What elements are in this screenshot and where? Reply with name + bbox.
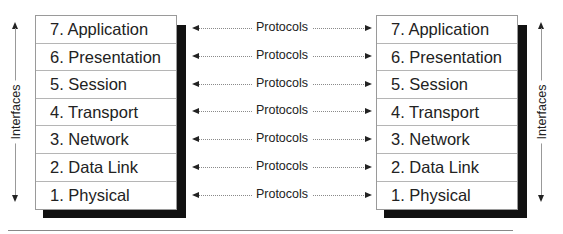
protocol-connector-session: Protocols [192, 78, 372, 92]
interfaces-arrow-left: Interfaces [9, 22, 23, 202]
arrow-right-icon [365, 136, 372, 142]
interfaces-label-left: Interfaces [9, 81, 23, 144]
layer-application: 7. Application [36, 16, 176, 44]
protocol-label: Protocols [252, 187, 312, 201]
stack-box: 7. Application 6. Presentation 5. Sessio… [376, 15, 518, 210]
arrow-right-icon [365, 81, 372, 87]
layer-transport: 4. Transport [36, 99, 176, 127]
protocol-connector-transport: Protocols [192, 105, 372, 119]
layer-presentation: 6. Presentation [36, 44, 176, 72]
protocol-label: Protocols [252, 159, 312, 173]
stack-box: 7. Application 6. Presentation 5. Sessio… [35, 15, 177, 210]
arrow-right-icon [365, 192, 372, 198]
protocol-label: Protocols [252, 103, 312, 117]
arrow-left-icon [192, 53, 199, 59]
layer-application: 7. Application [377, 16, 517, 44]
arrow-left-icon [192, 192, 199, 198]
arrow-right-icon [365, 53, 372, 59]
interfaces-label-right: Interfaces [535, 81, 549, 144]
arrow-right-icon [365, 25, 372, 31]
arrow-left-icon [192, 164, 199, 170]
arrow-left-icon [192, 108, 199, 114]
stack-shadow-right [177, 25, 186, 218]
arrow-right-icon [365, 108, 372, 114]
protocol-label: Protocols [252, 20, 312, 34]
bottom-divider [8, 230, 513, 231]
protocol-label: Protocols [252, 131, 312, 145]
protocol-connector-presentation: Protocols [192, 50, 372, 64]
layer-network: 3. Network [36, 126, 176, 154]
arrow-down-icon [538, 195, 544, 202]
layer-network: 3. Network [377, 126, 517, 154]
layer-presentation: 6. Presentation [377, 44, 517, 72]
layer-session: 5. Session [36, 71, 176, 99]
interfaces-arrow-right: Interfaces [535, 22, 549, 202]
arrow-right-icon [365, 164, 372, 170]
layer-transport: 4. Transport [377, 99, 517, 127]
protocol-connector-physical: Protocols [192, 189, 372, 203]
protocol-connector-application: Protocols [192, 22, 372, 36]
layer-data-link: 2. Data Link [36, 154, 176, 182]
arrow-left-icon [192, 25, 199, 31]
protocol-connector-network: Protocols [192, 133, 372, 147]
arrow-left-icon [192, 81, 199, 87]
layer-physical: 1. Physical [377, 182, 517, 210]
protocol-connector-data-link: Protocols [192, 161, 372, 175]
protocol-label: Protocols [252, 76, 312, 90]
stack-shadow-right [518, 25, 527, 218]
layer-data-link: 2. Data Link [377, 154, 517, 182]
protocol-label: Protocols [252, 48, 312, 62]
arrow-down-icon [12, 195, 18, 202]
layer-session: 5. Session [377, 71, 517, 99]
arrow-left-icon [192, 136, 199, 142]
layer-physical: 1. Physical [36, 182, 176, 210]
